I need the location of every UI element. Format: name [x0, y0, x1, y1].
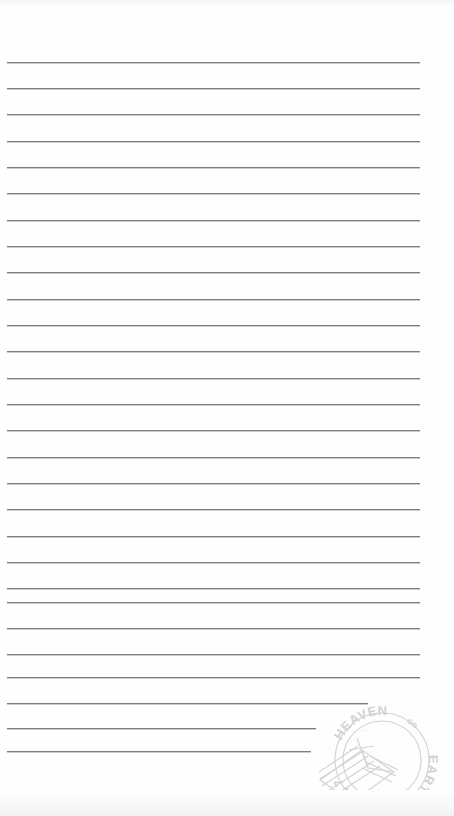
ruled-line	[7, 246, 420, 247]
ruled-line	[7, 628, 420, 629]
notepaper-page: HEAVEN on EARTH 7777 ·····	[0, 0, 454, 816]
ruled-lines-group	[0, 0, 454, 816]
ruled-line	[7, 378, 420, 379]
ruled-line	[7, 167, 420, 168]
ruled-line	[7, 62, 420, 63]
page-bottom-edge-band	[0, 790, 454, 816]
ruled-line	[7, 220, 420, 221]
ruled-line	[7, 509, 420, 510]
ruled-line	[7, 751, 311, 752]
ruled-line	[7, 272, 420, 273]
ruled-line	[7, 654, 420, 655]
ruled-line	[7, 602, 420, 603]
ruled-line	[7, 299, 420, 300]
ruled-line	[7, 728, 316, 729]
ruled-line	[7, 430, 420, 431]
ruled-line	[7, 703, 368, 704]
ruled-line	[7, 114, 420, 115]
ruled-line	[7, 141, 420, 142]
ruled-line	[7, 88, 420, 89]
ruled-line	[7, 404, 420, 405]
ruled-line	[7, 677, 420, 678]
ruled-line	[7, 483, 420, 484]
ruled-line	[7, 457, 420, 458]
ruled-line	[7, 325, 420, 326]
ruled-line	[7, 562, 420, 563]
ruled-line	[7, 351, 420, 352]
ruled-line	[7, 588, 420, 589]
ruled-line	[7, 193, 420, 194]
ruled-line	[7, 536, 420, 537]
